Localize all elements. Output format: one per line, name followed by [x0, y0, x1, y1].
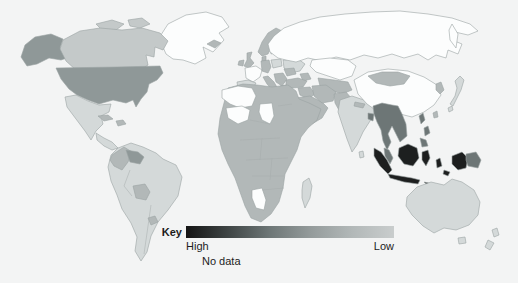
continent-south-america [108, 143, 182, 261]
region-canada-arctic-island-2 [128, 18, 150, 28]
continent-southeast-asia [373, 103, 481, 190]
key-no-data-label: No data [202, 255, 241, 268]
region-maluku-1 [436, 158, 442, 168]
region-tasmania [458, 237, 466, 244]
key-high-label: High [186, 240, 209, 253]
continent-africa [218, 84, 321, 222]
region-borneo [398, 144, 419, 166]
region-ireland [238, 60, 244, 66]
region-kazakhstan [310, 58, 356, 80]
region-java [388, 174, 420, 184]
region-new-zealand-south [485, 240, 494, 250]
region-japan [450, 76, 464, 106]
region-maluku-2 [443, 170, 450, 176]
region-hispaniola [116, 120, 126, 126]
region-germany [261, 60, 271, 73]
region-philippines-luzon [419, 113, 425, 124]
region-west-papua [452, 152, 468, 170]
region-sri-lanka [359, 151, 364, 158]
region-france [245, 66, 262, 82]
region-madagascar [302, 178, 312, 208]
region-central-america [96, 133, 118, 150]
continent-north-america [21, 12, 229, 150]
region-australia [406, 179, 480, 233]
key-gradient-bar [186, 226, 394, 238]
region-philippines-visayas [424, 126, 430, 136]
key-low-label: Low [336, 240, 394, 253]
figure-canvas: Key High Low No data [0, 0, 518, 283]
region-new-zealand-north [492, 228, 499, 237]
region-romania [284, 68, 296, 76]
world-map [0, 0, 518, 283]
region-japan-island [448, 106, 453, 112]
key-label: Key [155, 226, 182, 239]
region-poland [271, 59, 282, 68]
region-philippines-mindanao [420, 138, 428, 147]
region-russia [268, 11, 478, 62]
region-papua-new-guinea [466, 152, 481, 168]
continent-oceania [406, 179, 499, 250]
region-sulawesi [422, 150, 430, 166]
region-greenland [159, 12, 229, 64]
region-taiwan [433, 111, 438, 118]
region-balkans [274, 73, 287, 86]
region-uk [244, 52, 254, 68]
